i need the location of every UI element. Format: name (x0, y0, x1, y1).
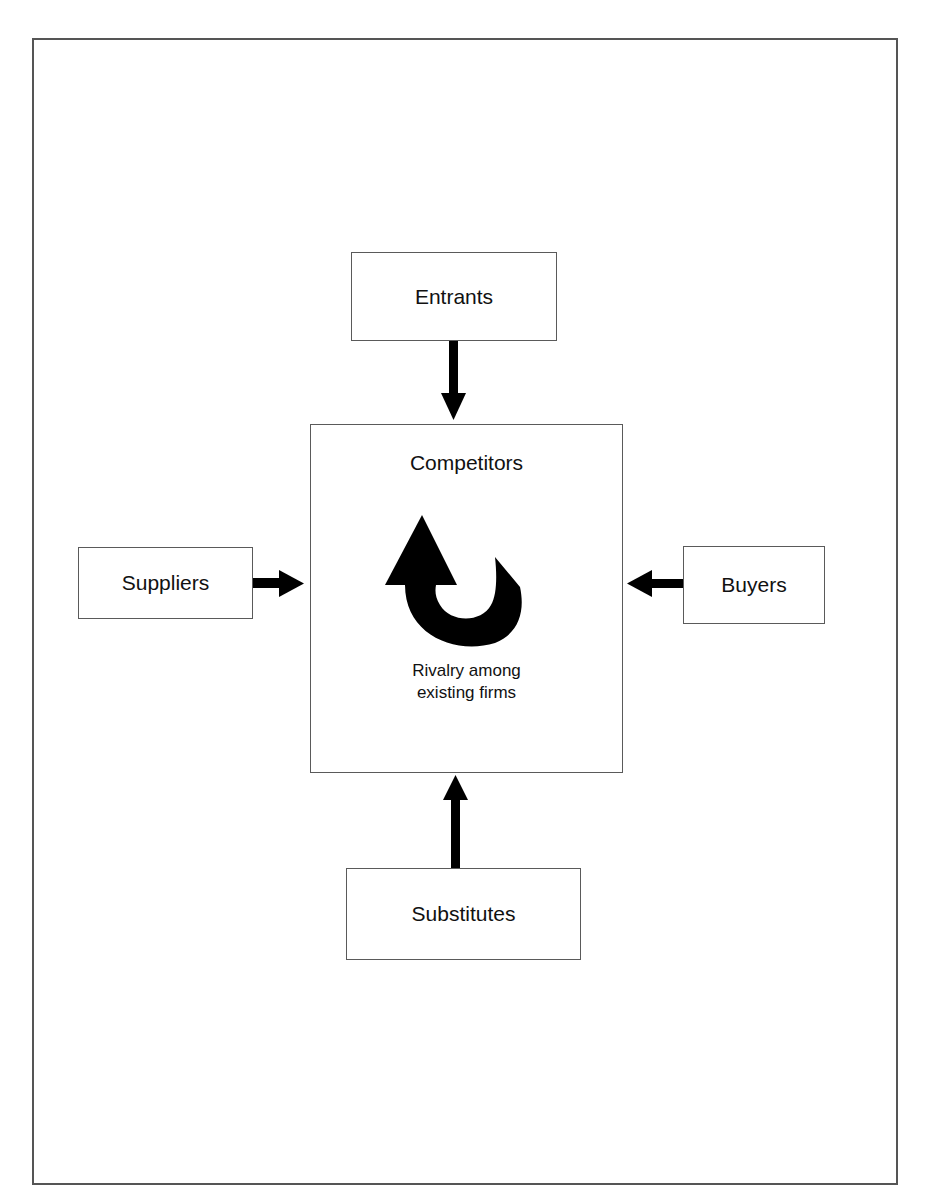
suppliers-label: Suppliers (122, 571, 210, 595)
rivalry-caption-line-2: existing firms (311, 682, 622, 704)
substitutes-label: Substitutes (412, 902, 516, 926)
competitors-title: Competitors (311, 451, 622, 475)
rivalry-caption: Rivalry among existing firms (311, 660, 622, 704)
substitutes-box: Substitutes (346, 868, 581, 960)
buyers-label: Buyers (721, 573, 786, 597)
buyers-box: Buyers (683, 546, 825, 624)
entrants-label: Entrants (415, 285, 493, 309)
rivalry-caption-line-1: Rivalry among (311, 660, 622, 682)
entrants-box: Entrants (351, 252, 557, 341)
competitors-box: Competitors Rivalry among existing firms (310, 424, 623, 773)
suppliers-box: Suppliers (78, 547, 253, 619)
u-turn-arrow-icon (385, 515, 535, 650)
